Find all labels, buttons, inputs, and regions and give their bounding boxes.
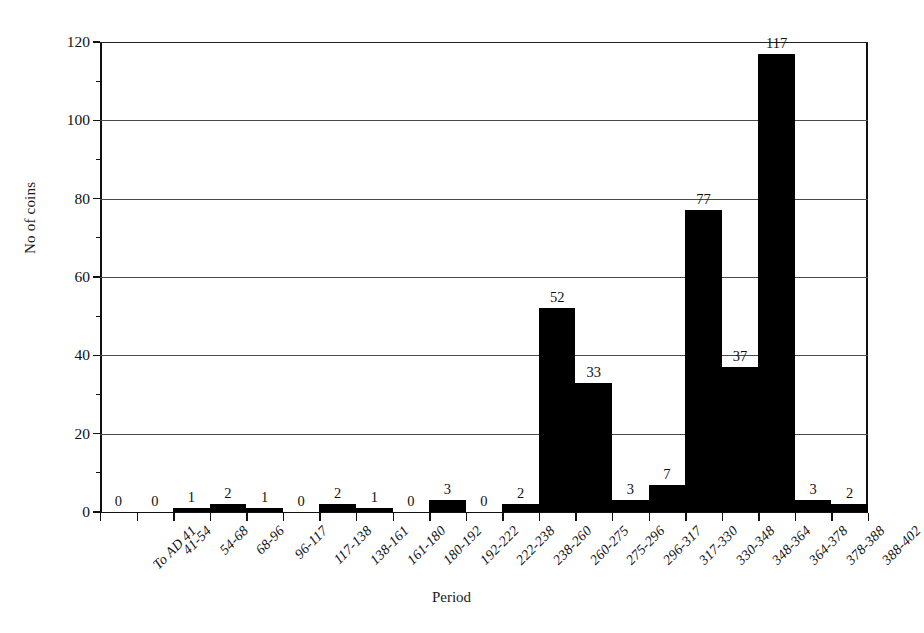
x-axis-category-label: 161-180: [404, 523, 449, 568]
x-axis-category-label: 296-317: [660, 523, 705, 568]
x-tick-19: [795, 513, 796, 521]
x-axis-category-label: 180-192: [440, 523, 485, 568]
x-axis-category-label: 388-402: [879, 523, 924, 568]
x-tick-21: [868, 513, 869, 521]
y-tick-minor-90: [96, 159, 100, 160]
x-axis-category-label: 138-161: [367, 523, 412, 568]
y-tick-minor-110: [96, 81, 100, 82]
x-tick-15: [649, 513, 650, 521]
y-tick-60: [93, 276, 100, 277]
y-tick-minor-30: [96, 394, 100, 395]
x-tick-4: [246, 513, 247, 521]
x-axis-category-label: 330-348: [733, 523, 778, 568]
x-tick-13: [575, 513, 576, 521]
x-tick-18: [758, 513, 759, 521]
x-tick-17: [722, 513, 723, 521]
x-axis-category-label: 238-260: [550, 523, 595, 568]
x-tick-6: [319, 513, 320, 521]
x-axis-category-label: 260-275: [587, 523, 632, 568]
x-axis-category-label: 364-378: [806, 523, 851, 568]
x-tick-16: [685, 513, 686, 521]
x-tick-11: [502, 513, 503, 521]
x-axis-category-label: 378-388: [843, 523, 888, 568]
x-tick-2: [173, 513, 174, 521]
x-tick-9: [429, 513, 430, 521]
x-axis-category-label: 275-296: [623, 523, 668, 568]
x-axis-category-label: 117-138: [330, 523, 375, 568]
y-tick-minor-50: [96, 316, 100, 317]
x-tick-3: [210, 513, 211, 521]
y-tick-minor-70: [96, 237, 100, 238]
y-tick-80: [93, 198, 100, 199]
y-tick-label-40: 40: [44, 347, 90, 363]
y-tick-20: [93, 433, 100, 434]
x-axis-category-label: 317-330: [696, 523, 741, 568]
y-tick-label-80: 80: [44, 191, 90, 207]
x-axis-category-label: 348-364: [769, 523, 814, 568]
x-tick-8: [393, 513, 394, 521]
y-tick-label-100: 100: [44, 112, 90, 128]
y-tick-label-60: 60: [44, 269, 90, 285]
y-tick-120: [93, 41, 100, 42]
x-tick-10: [466, 513, 467, 521]
x-tick-12: [539, 513, 540, 521]
x-tick-5: [283, 513, 284, 521]
x-tick-0: [100, 513, 101, 521]
y-tick-0: [93, 511, 100, 512]
y-tick-label-120: 120: [44, 34, 90, 50]
y-tick-100: [93, 120, 100, 121]
x-axis-tick-labels: To AD 4141-5454-6868-9696-117117-138138-…: [100, 0, 868, 633]
x-axis-category-label: 68-96: [253, 523, 288, 558]
x-axis-title: Period: [0, 589, 903, 606]
x-axis-category-label: 96-117: [292, 523, 331, 562]
y-tick-label-20: 20: [44, 426, 90, 442]
y-tick-minor-10: [96, 472, 100, 473]
x-axis-category-label: 222-238: [513, 523, 558, 568]
y-tick-40: [93, 355, 100, 356]
x-axis-category-label: 54-68: [217, 523, 252, 558]
x-axis-category-label: 192-222: [477, 523, 522, 568]
x-tick-7: [356, 513, 357, 521]
y-tick-label-0: 0: [44, 504, 90, 520]
x-tick-20: [831, 513, 832, 521]
x-tick-1: [137, 513, 138, 521]
x-tick-14: [612, 513, 613, 521]
y-axis-tick-labels: 020406080100120: [38, 0, 90, 633]
